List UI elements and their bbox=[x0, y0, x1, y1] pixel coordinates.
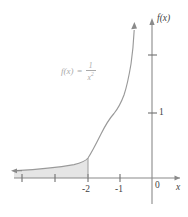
formula-equals: = bbox=[77, 67, 83, 76]
function-graph-figure: f(x) x 0 -2 -1 1 f(x) = 1 x2 bbox=[0, 0, 188, 217]
formula-denominator-exponent: 2 bbox=[91, 71, 94, 77]
y-axis-arrow-icon bbox=[149, 18, 154, 25]
formula-fraction: 1 x2 bbox=[86, 62, 96, 81]
y-axis-label: f(x) bbox=[157, 14, 170, 24]
x-tick-label-minus2: -2 bbox=[82, 185, 90, 195]
y-tick-label-one: 1 bbox=[159, 108, 164, 118]
origin-label: 0 bbox=[155, 181, 160, 191]
x-tick-label-minus1: -1 bbox=[115, 185, 123, 195]
function-curve-path bbox=[16, 30, 134, 171]
x-axis-arrow-icon bbox=[175, 176, 181, 181]
x-axis-label: x bbox=[176, 183, 180, 193]
function-formula-annotation: f(x) = 1 x2 bbox=[61, 62, 96, 81]
curve-arrow-icon bbox=[131, 22, 137, 29]
formula-denominator: x2 bbox=[86, 71, 96, 81]
formula-prefix: f(x) bbox=[61, 67, 74, 76]
formula-numerator: 1 bbox=[87, 62, 95, 70]
